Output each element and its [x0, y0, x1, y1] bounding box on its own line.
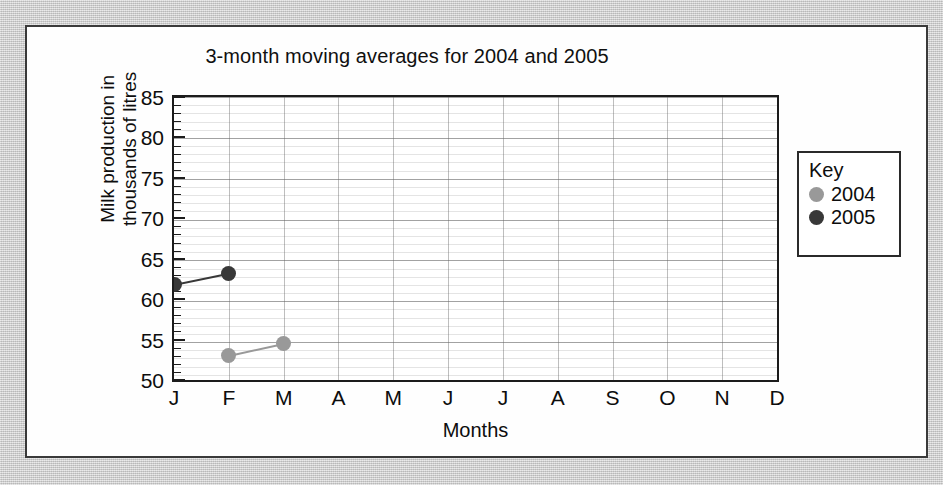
y-tick-major — [174, 298, 185, 300]
y-axis-title-line-2: thousands of litres — [119, 0, 141, 299]
legend-title: Key — [809, 159, 899, 181]
legend-entries: 20042005 — [809, 184, 899, 227]
y-tick-minor — [174, 380, 181, 381]
legend-label: 2005 — [831, 207, 876, 227]
y-tick-minor — [174, 348, 181, 349]
chart-panel: 3-month moving averages for 2004 and 200… — [25, 25, 928, 458]
y-tick-minor — [174, 226, 181, 227]
x-axis-tick-label: M — [378, 387, 408, 408]
y-axis-tick-label: 55 — [124, 330, 164, 351]
legend-box: Key 20042005 — [797, 151, 901, 257]
y-tick-minor — [174, 307, 181, 308]
y-tick-major — [174, 217, 185, 219]
y-tick-minor — [174, 162, 181, 163]
x-axis-title: Months — [172, 419, 779, 442]
gridline-vertical — [448, 97, 449, 380]
y-tick-major — [174, 177, 185, 179]
x-axis-tick-label: A — [543, 387, 573, 408]
y-tick-minor — [174, 170, 181, 171]
gridline-vertical — [667, 97, 668, 380]
gridline-vertical — [777, 97, 778, 380]
gridline-vertical — [613, 97, 614, 380]
gridline-vertical — [338, 97, 339, 380]
y-tick-minor — [174, 331, 181, 332]
y-tick-minor — [174, 194, 181, 195]
x-axis-tick-label: J — [433, 387, 463, 408]
y-tick-major — [174, 136, 185, 138]
gridline-vertical — [393, 97, 394, 380]
x-axis-tick-label: O — [652, 387, 682, 408]
y-tick-minor — [174, 113, 181, 114]
y-tick-minor — [174, 356, 181, 357]
y-tick-minor — [174, 186, 181, 187]
gridline-vertical — [503, 97, 504, 380]
y-tick-major — [174, 339, 185, 341]
x-axis-tick-labels: JFMAMJJASOND — [172, 387, 779, 417]
y-tick-minor — [174, 372, 181, 373]
x-axis-tick-label: J — [159, 387, 189, 408]
legend-entry-2005: 2005 — [809, 207, 899, 227]
legend-entry-2004: 2004 — [809, 184, 899, 204]
x-axis-tick-label: A — [323, 387, 353, 408]
y-tick-minor — [174, 146, 181, 147]
y-tick-major — [174, 96, 185, 98]
y-tick-minor — [174, 129, 181, 130]
plot-area — [172, 95, 779, 382]
legend-marker-icon — [809, 210, 824, 225]
y-tick-minor — [174, 267, 181, 268]
y-tick-minor — [174, 234, 181, 235]
legend-label: 2004 — [831, 184, 876, 204]
data-point-2005 — [221, 266, 236, 281]
y-axis-title: Milk production in thousands of litres — [97, 0, 141, 299]
y-tick-minor — [174, 210, 181, 211]
y-tick-minor — [174, 275, 181, 276]
y-tick-minor — [174, 121, 181, 122]
y-tick-minor — [174, 243, 181, 244]
y-tick-minor — [174, 202, 181, 203]
x-axis-tick-label: J — [488, 387, 518, 408]
y-axis-minor-ticks — [174, 97, 184, 380]
legend-marker-icon — [809, 187, 824, 202]
y-axis-title-line-1: Milk production in — [97, 0, 119, 299]
y-tick-major — [174, 379, 185, 381]
y-tick-minor — [174, 315, 181, 316]
gridline-vertical — [722, 97, 723, 380]
y-tick-minor — [174, 251, 181, 252]
y-tick-minor — [174, 105, 181, 106]
y-tick-major — [174, 258, 185, 260]
x-axis-tick-label: M — [269, 387, 299, 408]
vertical-gridlines — [174, 97, 777, 380]
y-tick-minor — [174, 323, 181, 324]
chart-title: 3-month moving averages for 2004 and 200… — [27, 45, 787, 68]
y-axis-tick-label: 50 — [124, 370, 164, 391]
x-axis-tick-label: F — [214, 387, 244, 408]
y-tick-minor — [174, 364, 181, 365]
x-axis-tick-label: S — [598, 387, 628, 408]
x-axis-tick-label: N — [707, 387, 737, 408]
y-tick-minor — [174, 154, 181, 155]
gridline-vertical — [558, 97, 559, 380]
gridline-vertical — [229, 97, 230, 380]
x-axis-tick-label: D — [762, 387, 792, 408]
